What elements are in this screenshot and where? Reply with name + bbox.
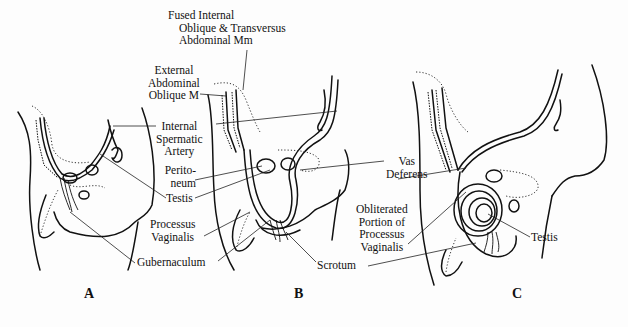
label-line: Obliterated	[356, 203, 408, 216]
label-line: Vaginalis	[150, 231, 195, 244]
panel-label-c: C	[512, 286, 522, 302]
label-processus-vaginalis: Processus Vaginalis	[150, 218, 195, 243]
label-line: Oblique M	[148, 89, 200, 102]
label-line: Abdominal Mm	[168, 34, 286, 47]
panel-c-drawing	[413, 65, 607, 285]
label-line: Oblique & Transversus	[168, 22, 286, 35]
label-external-abdominal-oblique: External Abdominal Oblique M	[148, 64, 200, 102]
label-vas-deferens: Vas Deferens	[386, 155, 428, 180]
label-testis-ab: Testis	[166, 192, 193, 205]
label-line: External	[148, 64, 200, 77]
label-line: Processus	[356, 228, 408, 241]
label-line: Vas	[386, 155, 428, 168]
label-line: Abdominal	[148, 77, 200, 90]
label-line: Processus	[150, 218, 195, 231]
label-line: neum	[164, 177, 196, 190]
label-scrotum: Scrotum	[317, 259, 356, 272]
label-gubernaculum: Gubernaculum	[137, 256, 205, 269]
label-line: Perito-	[164, 164, 196, 177]
label-line: Spermatic	[156, 133, 203, 146]
panel-label-b: B	[294, 286, 303, 302]
panel-a-drawing	[18, 106, 154, 270]
label-fused-internal-oblique: Fused Internal Oblique & Transversus Abd…	[168, 9, 286, 47]
label-line: Artery	[156, 145, 203, 158]
label-line: Portion of	[356, 216, 408, 229]
label-line: Internal	[156, 120, 203, 133]
label-internal-spermatic-artery: Internal Spermatic Artery	[156, 120, 203, 158]
panel-label-a: A	[84, 286, 94, 302]
label-testis-c: Testis	[531, 231, 558, 244]
label-obliterated-processus-vaginalis: Obliterated Portion of Processus Vaginal…	[356, 203, 408, 253]
testicular-descent-figure: Fused Internal Oblique & Transversus Abd…	[0, 0, 628, 327]
label-line: Vaginalis	[356, 241, 408, 254]
label-peritoneum: Perito- neum	[164, 164, 196, 189]
label-line: Deferens	[386, 168, 428, 181]
label-line: Fused Internal	[168, 9, 286, 22]
anatomical-drawings	[0, 0, 628, 327]
